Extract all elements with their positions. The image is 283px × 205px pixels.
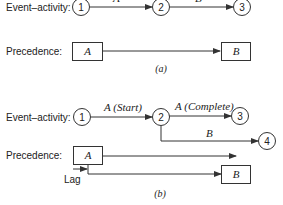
node-label: 2 xyxy=(158,112,164,123)
node-1-a: 1 xyxy=(73,0,90,16)
network-diagram: Event–activity: A B 1 2 3 Precedence: A … xyxy=(0,0,283,205)
precedence-label-a: Precedence: xyxy=(6,46,62,57)
node-3-a: 3 xyxy=(234,0,251,16)
box-A-b: A xyxy=(74,147,103,165)
box-label: A xyxy=(84,149,92,161)
box-B-a: B xyxy=(222,43,251,61)
node-label: 1 xyxy=(78,2,84,13)
box-label: A xyxy=(83,45,91,57)
arrow-label-a-complete: A (Complete) xyxy=(174,100,234,113)
node-label: 2 xyxy=(158,2,164,13)
node-2-a: 2 xyxy=(153,0,170,16)
arrow-label-B-b: B xyxy=(206,127,213,139)
arrow-label-A-a: A xyxy=(112,0,120,4)
arrow-label-a-start: A (Start) xyxy=(103,101,142,114)
node-2-b: 2 xyxy=(153,109,170,126)
caption-a: (a) xyxy=(155,63,167,75)
event-activity-label-b: Event–activity: xyxy=(6,112,70,123)
box-B-b: B xyxy=(222,166,251,184)
lag-label: Lag xyxy=(64,174,81,185)
part-a: Event–activity: A B 1 2 3 Precedence: A … xyxy=(6,0,251,75)
precedence-label-b: Precedence: xyxy=(6,150,62,161)
arrow-label-B-a: B xyxy=(195,0,202,4)
caption-b: (b) xyxy=(154,188,166,200)
node-label: 1 xyxy=(79,112,85,123)
part-b: Event–activity: A (Start) A (Complete) B… xyxy=(6,100,276,200)
precedence-arrow-a-to-b xyxy=(88,165,221,174)
node-label: 3 xyxy=(237,111,243,122)
event-activity-label-a: Event–activity: xyxy=(6,2,70,13)
box-label: B xyxy=(233,168,240,180)
box-A-a: A xyxy=(73,43,103,61)
node-1-b: 1 xyxy=(74,109,91,126)
box-label: B xyxy=(233,45,240,57)
node-label: 3 xyxy=(239,2,245,13)
node-3-b: 3 xyxy=(232,108,249,125)
node-4-b: 4 xyxy=(259,133,276,150)
node-label: 4 xyxy=(264,136,270,147)
